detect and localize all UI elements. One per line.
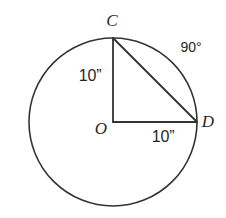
point-label-d: D — [202, 113, 214, 130]
geometry-figure: C D O 10” 10” 90° — [0, 0, 226, 218]
point-label-o: O — [95, 120, 107, 137]
geometry-canvas — [0, 0, 226, 218]
measure-label-radius-horizontal: 10” — [152, 129, 175, 145]
measure-label-radius-vertical: 10” — [79, 68, 102, 84]
point-label-c: C — [106, 12, 118, 29]
arc-angle-label: 90° — [181, 40, 202, 54]
